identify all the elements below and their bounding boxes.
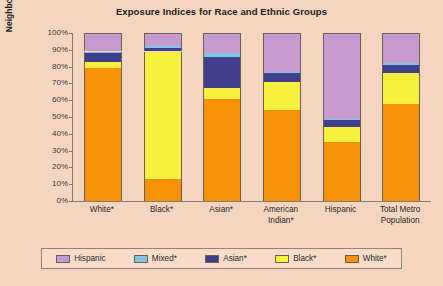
y-axis-tick-mark [69,184,73,185]
y-axis-tick-mark [69,151,73,152]
bar-segment[interactable] [323,119,361,121]
bar-segment[interactable] [84,33,122,51]
stacked-bar[interactable] [84,33,122,201]
bar-segment[interactable] [144,179,182,201]
legend-swatch [275,255,289,263]
bar-segment[interactable] [323,142,361,201]
bar-segment[interactable] [144,33,182,46]
bar-segment[interactable] [263,73,301,81]
bar-segment[interactable] [382,73,420,103]
legend-label: Hispanic [74,254,105,263]
bar-segment[interactable] [263,33,301,72]
stacked-bar[interactable] [263,33,301,201]
y-axis-tick-mark [69,117,73,118]
bar-segment[interactable] [323,120,361,127]
bar-segment[interactable] [382,33,420,63]
bar-segment[interactable] [263,82,301,111]
bar-segment[interactable] [203,53,241,56]
chart-legend: HispanicMixed*Asian*Black*White* [41,248,402,269]
y-axis-tick-label: 90% [42,46,68,54]
page-title: Exposure Indices for Race and Ethnic Gro… [0,6,443,17]
bar-segment[interactable] [144,48,182,51]
bar-segment[interactable] [84,52,122,54]
plot-area: 100%90%80%70%60%50%40%30%20%10%0% [72,33,431,202]
y-axis-tick-label: 10% [42,180,68,188]
stacked-bar[interactable] [323,33,361,201]
legend-label: White* [363,254,387,263]
bar-segment[interactable] [263,110,301,201]
legend-item[interactable]: Hispanic [56,254,105,263]
stacked-bar[interactable] [203,33,241,201]
legend-label: Mixed* [152,254,177,263]
bar-segment[interactable] [144,52,182,180]
stacked-bar[interactable] [382,33,420,201]
y-axis-tick-label: 0% [42,197,68,205]
y-axis-tick-label: 50% [42,113,68,121]
bar-segment[interactable] [203,33,241,53]
legend-swatch [134,255,148,263]
bar-segment[interactable] [382,65,420,73]
y-axis-tick-mark [69,167,73,168]
y-axis-tick-mark [69,50,73,51]
bar-segment[interactable] [382,104,420,201]
bar-segment[interactable] [323,33,361,119]
bar-segment[interactable] [203,88,241,98]
legend-label: Asian* [223,254,247,263]
y-axis-tick-mark [69,134,73,135]
legend-swatch [56,255,70,263]
bar-segment[interactable] [144,46,182,48]
y-axis-tick-mark [69,83,73,84]
x-axis-label: Total MetroPopulation [364,205,436,226]
bar-segment[interactable] [323,127,361,142]
bar-segment[interactable] [382,63,420,65]
legend-item[interactable]: Black* [275,254,316,263]
x-axis-label-line: Total Metro [364,205,436,216]
bar-segment[interactable] [84,53,122,61]
x-axis-label-line: Indian* [245,216,317,227]
y-axis-tick-label: 60% [42,96,68,104]
bar-segment[interactable] [84,68,122,201]
bar-segment[interactable] [203,57,241,89]
y-axis-title: Neighborhood Composition [2,0,16,61]
bar-segment[interactable] [203,99,241,201]
x-axis-label-line: Population [364,216,436,227]
y-axis-tick-label: 80% [42,63,68,71]
y-axis-tick-mark [69,100,73,101]
bar-segment[interactable] [263,72,301,74]
legend-item[interactable]: Mixed* [134,254,177,263]
legend-item[interactable]: White* [345,254,387,263]
legend-label: Black* [293,254,316,263]
legend-item[interactable]: Asian* [205,254,247,263]
y-axis-tick-mark [69,67,73,68]
y-axis-tick-label: 30% [42,147,68,155]
bar-segment[interactable] [84,62,122,69]
y-axis-tick-label: 70% [42,79,68,87]
y-axis-tick-mark [69,201,73,202]
y-axis-tick-label: 100% [42,29,68,37]
legend-swatch [205,255,219,263]
y-axis-tick-mark [69,33,73,34]
y-axis-tick-label: 20% [42,163,68,171]
legend-swatch [345,255,359,263]
stacked-bar[interactable] [144,33,182,201]
y-axis-tick-label: 40% [42,130,68,138]
